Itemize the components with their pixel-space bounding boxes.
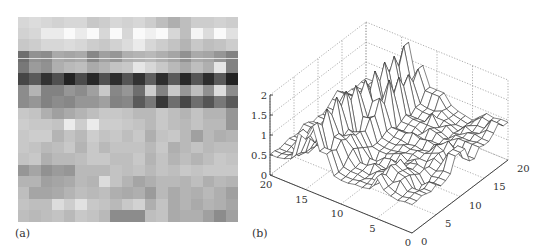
z-tick-label: 1 [261, 130, 267, 141]
x-tick-label: 10 [331, 208, 344, 219]
z-tick-label: 1.5 [251, 110, 267, 121]
y-tick-label: 20 [517, 163, 530, 174]
grayscale-image-matrix [18, 17, 238, 222]
y-tick-label: 0 [421, 236, 427, 247]
panel-a-label: (a) [15, 227, 30, 240]
z-tick-label: 2 [261, 90, 267, 101]
panel-a: (a) [0, 0, 250, 249]
x-tick-label: 15 [295, 194, 308, 205]
z-tick-label: 0.5 [251, 150, 267, 161]
y-tick-label: 5 [445, 218, 451, 229]
x-tick-label: 5 [369, 223, 375, 234]
panel-b-label: (b) [252, 227, 268, 240]
x-tick-label: 0 [405, 237, 411, 248]
surface-plot: 21.510.502015105005101520 [240, 0, 539, 249]
y-tick-label: 15 [493, 181, 506, 192]
x-tick-label: 20 [260, 179, 273, 190]
y-tick-label: 10 [469, 200, 482, 211]
panel-b: 21.510.502015105005101520 (b) [240, 0, 539, 249]
